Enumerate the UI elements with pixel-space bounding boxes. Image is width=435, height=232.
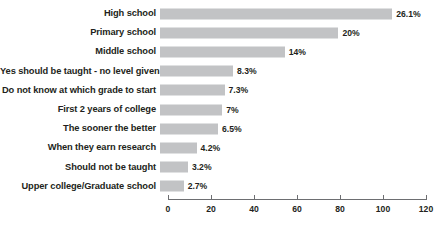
chart-row: Do not know at which grade to start7.3%	[0, 81, 435, 100]
x-axis-tick	[297, 195, 298, 200]
x-axis-tick	[254, 195, 255, 200]
bar-value-label: 14%	[289, 47, 306, 57]
bar-value-label: 2.7%	[188, 181, 208, 191]
bar-area: 14%	[160, 42, 435, 61]
x-axis-tick-label: 0	[166, 204, 171, 214]
chart-row: Should not be taught3.2%	[0, 158, 435, 177]
bar-area: 26.1%	[160, 4, 435, 23]
bar-value-label: 6.5%	[222, 124, 242, 134]
bar	[160, 181, 184, 192]
bar-value-label: 7.3%	[229, 85, 249, 95]
bar-area: 20%	[160, 23, 435, 42]
category-label: Yes should be taught - no level given	[0, 66, 160, 77]
x-axis: 020406080100120	[168, 199, 426, 200]
bar-area: 4.2%	[160, 138, 435, 157]
bar-area: 8.3%	[160, 62, 435, 81]
chart-row: The sooner the better6.5%	[0, 119, 435, 138]
x-axis-tick	[426, 195, 427, 200]
chart-row: Middle school14%	[0, 42, 435, 61]
category-label: Do not know at which grade to start	[0, 85, 160, 96]
category-label: When they earn research	[0, 142, 160, 153]
x-axis-tick	[383, 195, 384, 200]
bar-value-label: 4.2%	[201, 143, 221, 153]
x-axis-tick	[211, 195, 212, 200]
bar	[160, 162, 188, 173]
bar	[160, 46, 285, 57]
category-label: First 2 years of college	[0, 104, 160, 115]
x-axis-tick-label: 120	[419, 204, 433, 214]
bar	[160, 85, 225, 96]
chart-footnote	[4, 224, 304, 232]
category-label: The sooner the better	[0, 123, 160, 134]
category-label: Primary school	[0, 27, 160, 38]
category-label: Should not be taught	[0, 162, 160, 173]
bar-area: 6.5%	[160, 119, 435, 138]
category-label: Middle school	[0, 46, 160, 57]
x-axis-tick-label: 60	[292, 204, 302, 214]
bar-value-label: 20%	[342, 28, 359, 38]
bar-area: 3.2%	[160, 158, 435, 177]
bar-area: 2.7%	[160, 177, 435, 196]
chart-row: Primary school20%	[0, 23, 435, 42]
bar	[160, 27, 338, 38]
bar	[160, 123, 218, 134]
category-label: Upper college/Graduate school	[0, 181, 160, 192]
chart-row: Upper college/Graduate school2.7%	[0, 177, 435, 196]
bar-chart: High school26.1%Primary school20%Middle …	[0, 0, 435, 232]
bar	[160, 104, 222, 115]
chart-row: Yes should be taught - no level given8.3…	[0, 62, 435, 81]
chart-rows: High school26.1%Primary school20%Middle …	[0, 4, 435, 196]
chart-row: First 2 years of college7%	[0, 100, 435, 119]
chart-row: When they earn research4.2%	[0, 138, 435, 157]
x-axis-tick-label: 100	[376, 204, 390, 214]
bar-value-label: 3.2%	[192, 162, 212, 172]
x-axis-tick	[168, 195, 169, 200]
bar-value-label: 7%	[226, 105, 238, 115]
bar-area: 7.3%	[160, 81, 435, 100]
bar-area: 7%	[160, 100, 435, 119]
bar-value-label: 8.3%	[237, 66, 257, 76]
x-axis-tick-label: 40	[249, 204, 259, 214]
x-axis-tick	[340, 195, 341, 200]
bar	[160, 8, 392, 19]
bar	[160, 142, 197, 153]
category-label: High school	[0, 8, 160, 19]
x-axis-tick-label: 20	[206, 204, 216, 214]
x-axis-tick-label: 80	[335, 204, 345, 214]
bar	[160, 66, 233, 77]
chart-row: High school26.1%	[0, 4, 435, 23]
bar-value-label: 26.1%	[396, 9, 420, 19]
